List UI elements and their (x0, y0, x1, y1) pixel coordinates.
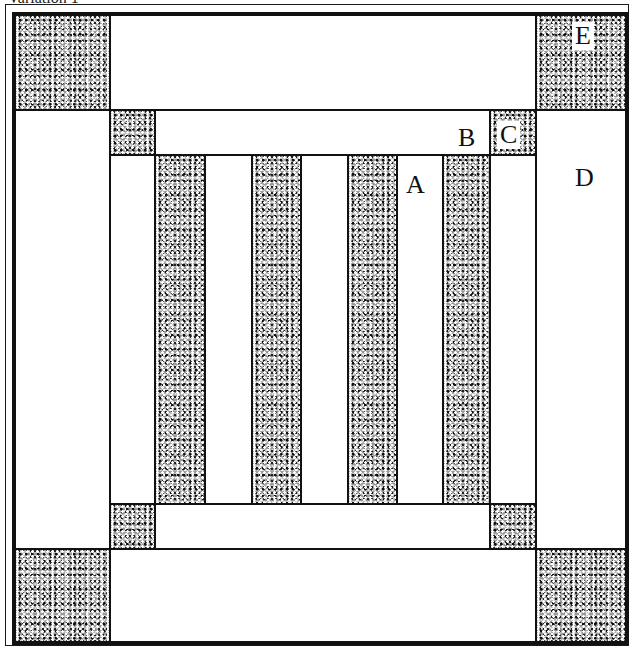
corner-square-top-left (14, 14, 111, 111)
label-d: D (575, 165, 594, 191)
center-stripe-shaded-2 (251, 154, 302, 505)
border-strip-top (109, 14, 537, 111)
center-stripe-plain-1 (204, 154, 253, 505)
inner-strip-bottom (154, 503, 491, 550)
border-strip-bottom (109, 548, 537, 643)
corner-square-bottom-left (14, 548, 111, 643)
small-square-top-left (109, 109, 156, 156)
border-strip-left (14, 109, 111, 550)
center-stripe-shaded-3 (347, 154, 398, 505)
inner-strip-left (109, 154, 156, 505)
inner-strip-right (489, 154, 537, 505)
center-stripe-plain-2 (300, 154, 349, 505)
label-a: A (406, 172, 425, 198)
small-square-bottom-right (489, 503, 537, 550)
label-e: E (572, 22, 594, 50)
small-square-bottom-left (109, 503, 156, 550)
corner-square-bottom-right (535, 548, 627, 643)
center-stripe-shaded-1 (154, 154, 206, 505)
label-c: C (497, 121, 520, 149)
inner-strip-top-b (154, 109, 491, 156)
center-stripe-plain-3-a (396, 154, 444, 505)
center-stripe-shaded-4 (442, 154, 491, 505)
label-b: B (458, 125, 475, 151)
